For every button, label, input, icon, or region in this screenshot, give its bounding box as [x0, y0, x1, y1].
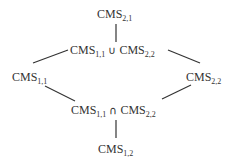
union-left-base: CMS — [70, 43, 95, 57]
inter-left-base: CMS — [71, 103, 96, 117]
edge-union-right — [168, 50, 200, 63]
node-intersection: CMS1,1∩CMS2,2 — [71, 103, 156, 122]
inter-left-sub: 1,1 — [96, 110, 106, 119]
node-right-base: CMS — [186, 70, 211, 84]
inter-right-base: CMS — [120, 103, 145, 117]
node-right: CMS2,2 — [186, 70, 221, 89]
node-left-base: CMS — [12, 70, 37, 84]
node-union: CMS1,1∪CMS2,2 — [70, 43, 155, 62]
node-left-sub: 1,1 — [37, 77, 47, 86]
node-bottom: CMS1,2 — [98, 142, 133, 161]
union-right-sub: 2,2 — [145, 50, 155, 59]
node-bottom-sub: 1,2 — [123, 149, 133, 158]
union-right-base: CMS — [119, 43, 144, 57]
union-operator: ∪ — [108, 44, 116, 57]
node-right-sub: 2,2 — [211, 77, 221, 86]
intersection-operator: ∩ — [109, 104, 117, 117]
node-bottom-base: CMS — [98, 142, 123, 156]
node-top: CMS2,1 — [97, 7, 132, 26]
inter-right-sub: 2,2 — [146, 110, 156, 119]
edge-left-intersection — [45, 86, 75, 101]
node-top-base: CMS — [97, 7, 122, 21]
node-left: CMS1,1 — [12, 70, 47, 89]
node-top-sub: 2,1 — [122, 14, 132, 23]
union-left-sub: 1,1 — [95, 50, 105, 59]
edge-union-left — [33, 50, 68, 63]
cms-lattice-diagram: CMS2,1 CMS1,1∪CMS2,2 CMS1,1 CMS2,2 CMS1,… — [0, 0, 235, 166]
